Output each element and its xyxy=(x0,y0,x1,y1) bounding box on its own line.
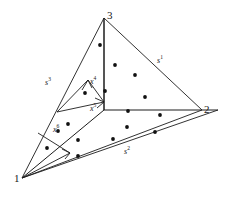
scatter-dot xyxy=(133,73,137,77)
arrowhead-x6 xyxy=(62,149,70,159)
scatter-dot xyxy=(113,63,117,67)
outer-triangle xyxy=(22,18,202,178)
scatter-dot xyxy=(76,154,80,158)
subcell-triangle-lower xyxy=(22,133,70,178)
edge-label-s2-sup: 2 xyxy=(127,145,130,151)
scatter-dot xyxy=(143,95,147,99)
scatter-dot xyxy=(126,109,130,113)
point-label-x4: x4 xyxy=(90,78,96,86)
point-label-x4-sup: 4 xyxy=(94,75,97,81)
scatter-dot xyxy=(103,89,107,93)
edge-label-s1-sup: 1 xyxy=(160,54,163,60)
scatter-dot xyxy=(45,146,49,150)
scatter-dot xyxy=(83,91,87,95)
point-label-x6-sup: 6 xyxy=(57,123,60,129)
vertex-label-2: 2 xyxy=(204,104,210,115)
segment-center-to-vertex1 xyxy=(22,110,104,178)
edge-label-s1: s1 xyxy=(157,57,163,65)
vertex-label-3: 3 xyxy=(107,10,113,21)
scatter-dot xyxy=(98,43,102,47)
edge-label-s2: s2 xyxy=(124,148,130,156)
simplex-diagram-svg xyxy=(0,0,227,198)
point-label-x6: x6 xyxy=(53,126,59,134)
scatter-dot xyxy=(158,113,162,117)
diagram-canvas: 1 2 3 s1 s2 s3 x4 x5 x6 xyxy=(0,0,227,198)
point-label-x5: x5 xyxy=(90,105,96,113)
edge-label-s3: s3 xyxy=(45,79,51,87)
scatter-dot xyxy=(153,130,157,134)
scatter-dot xyxy=(76,138,80,142)
scatter-dot xyxy=(66,122,70,126)
point-label-x5-sup: 5 xyxy=(94,102,97,108)
edge-label-s3-sup: 3 xyxy=(48,76,51,82)
scatter-dot xyxy=(111,137,115,141)
scatter-dot xyxy=(125,125,129,129)
vertex-label-1: 1 xyxy=(14,173,20,184)
